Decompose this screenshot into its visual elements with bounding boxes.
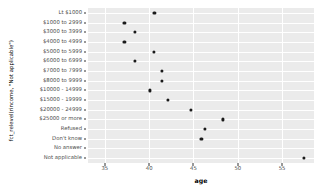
y-tick-mark (84, 61, 87, 62)
gridline-horizontal (88, 100, 314, 101)
y-tick-mark (84, 129, 87, 130)
data-point (160, 79, 163, 82)
y-tick-label: $8000 to 9999 (43, 78, 82, 83)
y-tick-label: $20000 - 24999 (40, 107, 82, 112)
data-point (133, 60, 136, 63)
y-tick-mark (84, 158, 87, 159)
y-tick-label: $4000 to 4999 (43, 39, 82, 44)
data-point (166, 98, 169, 101)
y-tick-mark (84, 80, 87, 81)
gridline-horizontal (88, 158, 314, 159)
y-tick-mark (84, 41, 87, 42)
x-tick-label: 45 (190, 166, 197, 171)
y-tick-mark (84, 32, 87, 33)
gridline-horizontal (88, 129, 314, 130)
y-tick-mark (84, 22, 87, 23)
y-tick-mark (84, 12, 87, 13)
data-point (200, 137, 203, 140)
y-tick-mark (84, 148, 87, 149)
y-tick-label: $1000 to 2999 (43, 20, 82, 25)
y-tick-label: $7000 to 7999 (43, 68, 82, 73)
x-tick-label: 35 (101, 166, 108, 171)
gridline-horizontal (88, 32, 314, 33)
x-axis-tick-labels: 3540455055 (88, 163, 314, 177)
data-point (303, 157, 306, 160)
gridline-horizontal (88, 148, 314, 149)
data-point (123, 21, 126, 24)
data-point (148, 89, 151, 92)
gridline-horizontal (88, 61, 314, 62)
y-tick-mark (84, 119, 87, 120)
y-tick-mark (84, 51, 87, 52)
y-tick-label: Refused (61, 126, 82, 131)
y-tick-label: $3000 to 3999 (43, 30, 82, 35)
x-tick-label: 55 (279, 166, 286, 171)
y-tick-label: $25000 or more (39, 117, 82, 122)
y-tick-label: Don't know (52, 136, 82, 141)
y-tick-label: $6000 to 6999 (43, 59, 82, 64)
data-point (133, 31, 136, 34)
y-tick-mark (84, 109, 87, 110)
gridline-horizontal (88, 52, 314, 53)
data-point (153, 11, 156, 14)
y-tick-mark (84, 70, 87, 71)
y-tick-mark (84, 90, 87, 91)
plot-panel (88, 8, 314, 163)
y-tick-label: $10000 - 14999 (40, 88, 82, 93)
gridline-horizontal (88, 90, 314, 91)
y-tick-mark (84, 100, 87, 101)
x-axis-title: age (88, 178, 314, 184)
gridline-horizontal (88, 110, 314, 111)
y-tick-mark (84, 138, 87, 139)
gridline-horizontal (88, 71, 314, 72)
data-point (221, 118, 224, 121)
y-tick-label: Lt $1000 (58, 10, 82, 15)
data-point (160, 69, 163, 72)
y-axis-tick-labels: Lt $1000$1000 to 2999$3000 to 3999$4000 … (14, 8, 86, 163)
gridline-horizontal (88, 81, 314, 82)
y-tick-label: Not applicable (44, 156, 82, 161)
x-tick-label: 50 (234, 166, 241, 171)
y-tick-label: $15000 - 19999 (40, 97, 82, 102)
data-point (152, 50, 155, 53)
gridline-horizontal (88, 13, 314, 14)
data-point (203, 128, 206, 131)
scatter-plot: fct_relevel(rincome, "Not applicable") L… (0, 0, 320, 193)
x-tick-label: 40 (146, 166, 153, 171)
y-tick-label: $5000 to 5999 (43, 49, 82, 54)
data-point (123, 40, 126, 43)
gridline-horizontal (88, 119, 314, 120)
y-tick-label: No answer (54, 146, 82, 151)
data-point (189, 108, 192, 111)
